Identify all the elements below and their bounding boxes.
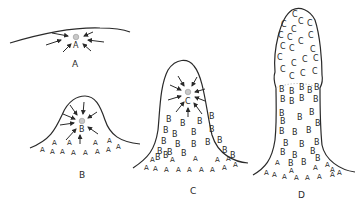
panel-label-a: A xyxy=(72,59,79,69)
cells-b: BBBBB BBBB BBB BB BBB BBB BBB BBB xyxy=(279,83,321,168)
svg-text:B: B xyxy=(163,151,169,160)
svg-text:C: C xyxy=(308,31,314,40)
svg-text:B: B xyxy=(217,136,223,145)
svg-text:B: B xyxy=(280,117,286,126)
svg-text:B: B xyxy=(166,115,172,124)
morphogenesis-diagram: A A B A A A A A A A A A A A xyxy=(0,0,357,200)
svg-text:A: A xyxy=(50,148,55,156)
svg-text:A: A xyxy=(317,173,322,181)
panel-b: B A A A A A A A A A A A A B xyxy=(30,96,140,180)
organizer-dot xyxy=(185,89,191,95)
svg-text:B: B xyxy=(283,139,289,148)
svg-text:A: A xyxy=(226,155,231,163)
svg-text:C: C xyxy=(280,42,286,51)
svg-text:C: C xyxy=(302,55,308,64)
svg-text:B: B xyxy=(172,130,178,139)
svg-text:A: A xyxy=(282,173,287,181)
svg-text:B: B xyxy=(314,138,320,147)
panel-d: C CCC CC CCC CCC CCC C CCC C BBBBB BBBB … xyxy=(253,8,355,200)
svg-text:A: A xyxy=(275,159,280,167)
svg-text:B: B xyxy=(161,137,167,146)
svg-text:C: C xyxy=(298,17,304,26)
svg-text:C: C xyxy=(289,44,295,53)
svg-text:A: A xyxy=(150,156,155,164)
svg-text:B: B xyxy=(181,149,187,158)
svg-text:A: A xyxy=(176,166,181,174)
svg-text:C: C xyxy=(307,19,313,28)
svg-text:B: B xyxy=(299,83,305,92)
svg-text:A: A xyxy=(95,148,100,156)
svg-text:A: A xyxy=(294,174,299,182)
svg-text:A: A xyxy=(264,169,269,177)
svg-text:A: A xyxy=(210,166,215,174)
svg-text:B: B xyxy=(191,140,197,149)
panel-label-d: D xyxy=(298,190,305,200)
svg-text:C: C xyxy=(298,37,304,46)
svg-text:B: B xyxy=(155,153,161,162)
svg-text:B: B xyxy=(299,140,305,149)
svg-text:C: C xyxy=(278,31,284,40)
center-cell-a: A xyxy=(73,41,79,50)
svg-text:B: B xyxy=(163,126,169,135)
svg-text:C: C xyxy=(300,69,306,78)
svg-text:C: C xyxy=(287,33,293,42)
svg-text:A: A xyxy=(313,164,318,172)
svg-text:A: A xyxy=(222,164,227,172)
svg-text:B: B xyxy=(205,138,211,147)
svg-text:C: C xyxy=(310,45,316,54)
svg-text:B: B xyxy=(209,112,215,121)
svg-text:A: A xyxy=(330,171,335,179)
svg-text:B: B xyxy=(299,94,305,103)
svg-text:B: B xyxy=(197,117,203,126)
svg-text:B: B xyxy=(315,154,321,163)
organizer-dot xyxy=(73,34,79,40)
panel-label-c: C xyxy=(190,186,196,196)
svg-text:A: A xyxy=(153,165,158,173)
svg-text:A: A xyxy=(170,156,175,164)
svg-text:B: B xyxy=(297,113,303,122)
svg-text:A: A xyxy=(337,169,342,177)
svg-text:A: A xyxy=(193,155,198,163)
svg-text:A: A xyxy=(215,156,220,164)
svg-text:B: B xyxy=(280,148,286,157)
svg-text:C: C xyxy=(312,67,318,76)
cells-c: C CCC CC CCC CCC CCC C CCC C xyxy=(277,10,319,81)
svg-text:A: A xyxy=(187,166,192,174)
tissue-outline-b xyxy=(30,96,140,148)
organizer-dot xyxy=(79,118,85,124)
svg-text:A: A xyxy=(71,149,76,157)
svg-text:A: A xyxy=(106,146,111,154)
svg-text:B: B xyxy=(315,119,321,128)
panel-a: A A xyxy=(10,28,130,69)
svg-text:A: A xyxy=(83,149,88,157)
center-cell-b: B xyxy=(79,125,85,134)
svg-text:C: C xyxy=(289,72,295,81)
center-cell-c: C xyxy=(185,97,191,106)
svg-text:B: B xyxy=(301,158,307,167)
svg-text:B: B xyxy=(230,151,236,160)
svg-text:C: C xyxy=(277,53,283,62)
svg-text:B: B xyxy=(292,128,298,137)
svg-text:B: B xyxy=(306,126,312,135)
svg-text:B: B xyxy=(279,85,285,94)
svg-text:A: A xyxy=(93,139,98,147)
svg-text:B: B xyxy=(307,86,313,95)
svg-text:C: C xyxy=(281,20,287,29)
svg-text:A: A xyxy=(107,137,112,145)
svg-text:A: A xyxy=(272,171,277,179)
svg-text:B: B xyxy=(314,83,320,92)
svg-text:B: B xyxy=(175,140,181,149)
svg-text:A: A xyxy=(164,166,169,174)
svg-text:B: B xyxy=(309,108,315,117)
svg-text:A: A xyxy=(233,161,238,169)
surface-line xyxy=(10,28,130,43)
svg-text:C: C xyxy=(280,65,286,74)
svg-text:B: B xyxy=(289,97,295,106)
svg-text:A: A xyxy=(60,148,65,156)
panel-label-b: B xyxy=(79,170,85,180)
svg-text:B: B xyxy=(280,95,286,104)
svg-text:B: B xyxy=(209,125,215,134)
svg-text:B: B xyxy=(180,119,186,128)
svg-text:C: C xyxy=(291,59,297,68)
panel-c: C BBBB BBBB BBBBB BBBB BBB AAAAA AAAAAAA… xyxy=(133,60,248,196)
